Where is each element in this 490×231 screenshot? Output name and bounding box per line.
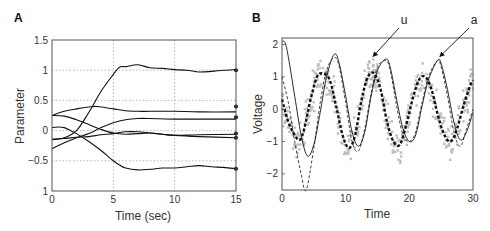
data-point: [367, 66, 369, 68]
x-tick-label: 10: [169, 194, 181, 205]
data-point: [313, 110, 315, 112]
panel-b-label: B: [252, 11, 261, 25]
data-point: [375, 90, 377, 92]
data-point: [325, 93, 327, 95]
data-point: [376, 63, 378, 65]
figure: A 0510151−0.500.511.5 Time (sec) Paramet…: [0, 0, 490, 231]
data-point: [416, 76, 418, 78]
data-point: [468, 94, 470, 96]
data-point: [397, 149, 399, 151]
data-point: [451, 151, 453, 153]
data-point: [440, 116, 442, 118]
data-point: [347, 152, 349, 154]
data-point: [328, 89, 330, 91]
y-tick-label: 0.5: [34, 95, 48, 106]
data-point: [310, 107, 312, 109]
panel-a-frame: [52, 40, 236, 191]
data-point: [358, 126, 360, 128]
data-point: [421, 84, 423, 86]
data-point: [367, 71, 369, 73]
y-tick-label: 0: [272, 104, 278, 115]
data-point: [313, 101, 315, 103]
data-point: [297, 133, 299, 135]
series-line-p1: [52, 65, 236, 140]
data-point: [387, 116, 389, 118]
data-point: [399, 160, 401, 162]
data-point: [428, 92, 430, 94]
data-point: [322, 67, 324, 69]
annotation-label-u: u: [401, 13, 408, 27]
data-point: [443, 117, 445, 119]
data-point: [372, 65, 374, 67]
data-point: [458, 133, 460, 135]
data-point: [421, 72, 423, 74]
data-point: [368, 86, 370, 88]
panel-a-ticks: 0510151−0.500.511.5: [28, 35, 242, 206]
data-point: [391, 120, 393, 122]
data-point: [307, 117, 309, 119]
data-point: [316, 68, 318, 70]
annotation-arrow-u: [373, 28, 399, 56]
data-point: [444, 131, 446, 133]
data-point: [287, 127, 289, 129]
data-point: [313, 76, 315, 78]
data-point: [443, 143, 445, 145]
data-point: [385, 99, 387, 101]
panel-b-data-points: [281, 58, 474, 164]
x-tick-label: 0: [279, 193, 285, 204]
data-point: [451, 148, 453, 150]
data-point: [396, 137, 398, 139]
data-point: [442, 122, 444, 124]
data-point: [357, 134, 359, 136]
data-point: [320, 83, 322, 85]
y-tick-label: 0: [42, 125, 48, 136]
data-point: [467, 111, 469, 113]
annotation-label-a: a: [471, 13, 478, 27]
data-point: [391, 131, 393, 133]
data-point: [462, 120, 464, 122]
data-point: [353, 116, 355, 118]
data-point: [362, 104, 364, 106]
panel-b-ylabel: Voltage: [251, 94, 265, 134]
data-point: [305, 100, 307, 102]
data-point: [445, 146, 447, 148]
data-point: [312, 69, 314, 71]
data-point: [363, 70, 365, 72]
data-point: [368, 60, 370, 62]
panel-a-series: [52, 65, 238, 171]
data-point: [288, 131, 290, 133]
y-tick-label: −2: [267, 168, 279, 179]
data-point: [293, 126, 295, 128]
annotation-arrow-a: [440, 28, 469, 56]
data-point: [449, 159, 451, 161]
data-point: [384, 127, 386, 129]
data-point: [326, 87, 328, 89]
x-tick-label: 20: [404, 193, 416, 204]
data-point: [292, 147, 294, 149]
data-point: [431, 84, 433, 86]
data-point: [392, 152, 394, 154]
data-point: [347, 135, 349, 137]
data-point: [451, 133, 453, 135]
data-point: [467, 109, 469, 111]
data-point: [341, 142, 343, 144]
data-point: [435, 116, 437, 118]
data-point: [458, 130, 460, 132]
x-tick-label: 10: [340, 193, 352, 204]
data-point: [408, 124, 410, 126]
data-point: [415, 104, 417, 106]
data-point: [410, 93, 412, 95]
data-point: [319, 67, 321, 69]
panel-a-ylabel: Parameter: [13, 88, 27, 144]
data-point: [387, 103, 389, 105]
data-point: [387, 138, 389, 140]
data-point: [349, 138, 351, 140]
x-tick-label: 15: [230, 194, 242, 205]
panel-b-xlabel: Time: [364, 207, 391, 221]
data-point: [350, 158, 352, 160]
data-point: [400, 151, 402, 153]
panel-a: A 0510151−0.500.511.5 Time (sec) Paramet…: [13, 11, 242, 223]
data-point: [297, 143, 299, 145]
data-point: [286, 117, 288, 119]
data-point: [432, 108, 434, 110]
